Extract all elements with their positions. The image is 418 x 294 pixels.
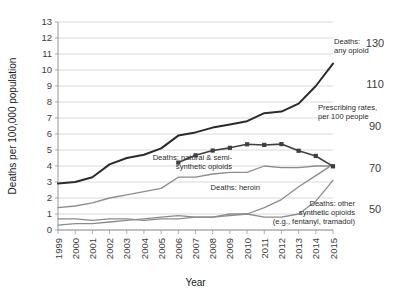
y-axis-tick-label: 5 (47, 144, 52, 155)
annot-natural-semi: Deaths: natural & semi- (153, 153, 233, 162)
series-marker (211, 148, 215, 152)
series-marker (331, 164, 335, 168)
y-axis-tick-label: 2 (47, 192, 52, 203)
x-axis-tick-label: 2000 (70, 238, 81, 259)
opioid-overdose-chart: 0123456789101112131999200020012002200320… (0, 0, 418, 294)
x-axis-tick-label: 2005 (156, 238, 167, 259)
series-marker (279, 142, 283, 146)
annot-any-opioid: any opioid (334, 46, 369, 55)
x-axis-tick-label: 2015 (328, 238, 339, 259)
y-axis-tick-label: 12 (41, 32, 52, 43)
y-axis-tick-label: 0 (47, 224, 52, 235)
series-marker (245, 142, 249, 146)
x-axis-tick-label: 2006 (173, 238, 184, 259)
annot-prescribing: Prescribing rates, (318, 103, 377, 112)
y-axis-tick-label: 3 (47, 176, 52, 187)
chart-canvas: 0123456789101112131999200020012002200320… (0, 0, 418, 294)
y-axis-tick-label: 10 (41, 64, 52, 75)
y-axis-tick-label: 13 (41, 16, 52, 27)
x-axis-tick-label: 2008 (207, 238, 218, 259)
annot-other-synthetic: (e.g., fentanyl, tramadol) (273, 217, 356, 226)
y2-axis-tick-label: 90 (369, 120, 381, 132)
y-axis-title: Deaths per 100,000 population (7, 58, 18, 195)
annot-prescribing: per 100 people (318, 112, 369, 121)
y-axis-tick-label: 6 (47, 128, 52, 139)
x-axis-tick-label: 2009 (224, 238, 235, 259)
x-axis-tick-label: 2014 (310, 238, 321, 259)
series-marker (262, 143, 266, 147)
gridlines: 012345678910111213 (41, 16, 333, 235)
series-marker (297, 149, 301, 153)
x-axis-title: Year (185, 277, 206, 288)
series-marker (314, 154, 318, 158)
y2-axis-tick-label: 70 (369, 162, 381, 174)
x-axis-tick-label: 2011 (259, 238, 270, 258)
x-axis-ticks: 1999200020012002200320042005200620072008… (53, 230, 339, 259)
x-axis-tick-label: 2012 (276, 238, 287, 259)
secondary-y-axis: 507090110130 (366, 37, 384, 215)
series-marker (228, 146, 232, 150)
y-axis-tick-label: 4 (47, 160, 52, 171)
x-axis-tick-label: 2013 (293, 238, 304, 259)
y2-axis-tick-label: 110 (366, 78, 384, 90)
x-axis-tick-label: 1999 (53, 238, 64, 259)
annot-natural-semi: synthetic opioids (176, 162, 232, 171)
series-group (58, 64, 335, 226)
y-axis-tick-label: 11 (42, 48, 52, 59)
y-axis-tick-label: 1 (47, 208, 52, 219)
x-axis-tick-label: 2003 (121, 238, 132, 259)
annot-any-opioid: Deaths: (334, 37, 360, 46)
y-axis-tick-label: 9 (47, 80, 52, 91)
annot-other-synthetic: synthetic opioids (299, 208, 355, 217)
annot-heroin: Deaths: heroin (211, 183, 260, 192)
x-axis-tick-label: 2002 (104, 238, 115, 259)
x-axis-tick-label: 2004 (139, 238, 150, 259)
y2-axis-tick-label: 50 (369, 203, 381, 215)
x-axis-tick-label: 2010 (242, 238, 253, 259)
y-axis-tick-label: 7 (47, 112, 52, 123)
annot-other-synthetic: Deaths: other (309, 199, 355, 208)
x-axis-tick-label: 2001 (87, 238, 98, 259)
y-axis-tick-label: 8 (47, 96, 52, 107)
x-axis-tick-label: 2007 (190, 238, 201, 259)
